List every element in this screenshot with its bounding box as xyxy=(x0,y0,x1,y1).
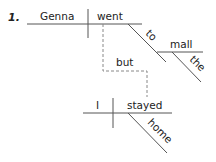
item-number: 1. xyxy=(8,11,20,24)
article-word: the xyxy=(188,53,209,74)
clause1-subject: Genna xyxy=(40,10,74,22)
sentence-diagram: 1. Genna went to mall the but I stayed h… xyxy=(0,0,216,162)
adverb-word: home xyxy=(146,116,176,146)
preposition-diagonal xyxy=(128,24,166,62)
object-word: mall xyxy=(170,38,193,50)
conjunction-word: but xyxy=(116,56,133,68)
clause1-verb: went xyxy=(97,10,123,22)
clause2-verb: stayed xyxy=(127,99,162,111)
preposition-word: to xyxy=(144,27,160,43)
clause2-subject: I xyxy=(96,99,99,111)
